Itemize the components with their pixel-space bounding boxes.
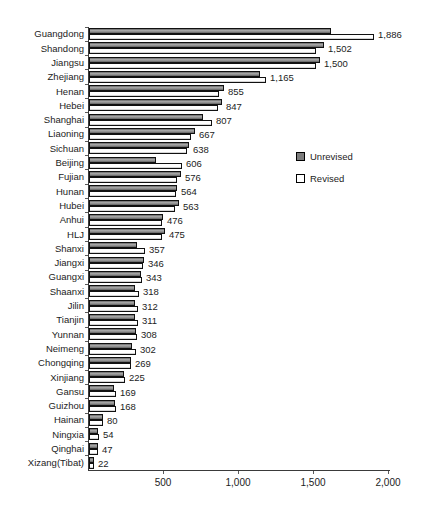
bar-row: Neimeng302	[0, 342, 424, 356]
revised-bar	[89, 349, 136, 355]
value-label: 318	[143, 287, 159, 297]
legend-label-revised: Revised	[310, 174, 344, 184]
bar-row: Hubei563	[0, 199, 424, 213]
revised-bar	[89, 163, 182, 169]
bar-group: 80	[88, 413, 424, 427]
bar-group: 312	[88, 299, 424, 313]
value-label: 22	[98, 459, 109, 469]
bar-group: 576	[88, 170, 424, 184]
bar-group: 311	[88, 313, 424, 327]
bar-group: 346	[88, 256, 424, 270]
bar-group: 343	[88, 270, 424, 284]
x-axis-tick-label: 500	[155, 477, 172, 488]
revised-bar	[89, 177, 177, 183]
bar-group: 1,165	[88, 70, 424, 84]
unrevised-swatch-icon	[296, 152, 305, 161]
category-label: Hebei	[0, 101, 88, 111]
bar-group: 563	[88, 199, 424, 213]
bar-row: HLJ475	[0, 227, 424, 241]
value-label: 1,165	[270, 73, 294, 83]
bar-group: 168	[88, 399, 424, 413]
bar-row: Jiangxi346	[0, 256, 424, 270]
value-label: 80	[107, 416, 118, 426]
revised-bar	[89, 291, 139, 297]
bar-row: Hunan564	[0, 184, 424, 198]
category-label: Tianjin	[0, 315, 88, 325]
bar-group: 308	[88, 327, 424, 341]
x-axis-tick-label: 1,000	[225, 477, 250, 488]
category-label: Hunan	[0, 187, 88, 197]
bar-row: Shanghai807	[0, 113, 424, 127]
revised-bar	[89, 148, 187, 154]
revised-bar	[89, 277, 142, 283]
legend-item-unrevised: Unrevised	[296, 152, 353, 162]
bar-row: Shanxi357	[0, 241, 424, 255]
category-label: Shanghai	[0, 115, 88, 125]
bar-group: 1,500	[88, 56, 424, 70]
bar-group: 807	[88, 113, 424, 127]
bar-row: Guangdong1,886	[0, 27, 424, 41]
category-label: Anhui	[0, 215, 88, 225]
revised-bar	[89, 234, 162, 240]
revised-bar	[89, 420, 103, 426]
bar-group: 564	[88, 184, 424, 198]
category-label: HLJ	[0, 230, 88, 240]
bar-row: Ningxia54	[0, 427, 424, 441]
value-label: 225	[129, 373, 145, 383]
bar-row: Shandong1,502	[0, 41, 424, 55]
bar-group: 1,886	[88, 27, 424, 41]
revised-bar	[89, 105, 218, 111]
value-label: 346	[148, 259, 164, 269]
revised-bar	[89, 91, 219, 97]
bar-row: Guizhou168	[0, 399, 424, 413]
value-label: 343	[146, 273, 162, 283]
category-label: Chongqing	[0, 358, 88, 368]
bar-row: Zhejiang1,165	[0, 70, 424, 84]
bar-group: 667	[88, 127, 424, 141]
bar-group: 855	[88, 84, 424, 98]
revised-bar	[89, 34, 374, 40]
category-label: Hainan	[0, 415, 88, 425]
category-label: Guizhou	[0, 401, 88, 411]
value-label: 1,500	[324, 58, 348, 67]
revised-bar	[89, 434, 99, 440]
bar-row: Tianjin311	[0, 313, 424, 327]
value-label: 54	[103, 430, 114, 440]
value-label: 807	[216, 116, 232, 126]
bar-row: Hebei847	[0, 98, 424, 112]
bar-chart: Guangdong1,886Shandong1,502Jiangsu1,500Z…	[0, 0, 424, 525]
bar-rows-container: Guangdong1,886Shandong1,502Jiangsu1,500Z…	[0, 27, 424, 470]
revised-swatch-icon	[296, 174, 305, 183]
bar-row: Xinjiang225	[0, 370, 424, 384]
value-label: 606	[186, 158, 202, 168]
category-label: Jiangsu	[0, 58, 88, 68]
category-label: Beijing	[0, 158, 88, 168]
revised-bar	[89, 449, 98, 455]
bar-group: 606	[88, 156, 424, 170]
bar-group: 269	[88, 356, 424, 370]
revised-bar	[89, 191, 176, 197]
bar-row: Qinghai47	[0, 442, 424, 456]
bar-group: 357	[88, 241, 424, 255]
value-label: 576	[185, 173, 201, 183]
revised-bar	[89, 248, 145, 254]
revised-bar	[89, 120, 212, 126]
value-label: 475	[169, 230, 185, 240]
bar-group: 475	[88, 227, 424, 241]
revised-bar	[89, 406, 116, 412]
bar-row: Xizang(Tibat)22	[0, 456, 424, 470]
revised-bar	[89, 48, 316, 54]
revised-bar	[89, 377, 125, 383]
bar-group: 225	[88, 370, 424, 384]
category-label: Shanxi	[0, 244, 88, 254]
bar-row: Gansu169	[0, 384, 424, 398]
bar-group: 54	[88, 427, 424, 441]
x-axis-tick	[388, 471, 389, 474]
legend-label-unrevised: Unrevised	[310, 152, 353, 162]
revised-bar	[89, 63, 316, 69]
bar-group: 302	[88, 342, 424, 356]
category-label: Jilin	[0, 301, 88, 311]
value-label: 308	[141, 330, 157, 340]
bar-row: Yunnan308	[0, 327, 424, 341]
bar-row: Anhui476	[0, 213, 424, 227]
